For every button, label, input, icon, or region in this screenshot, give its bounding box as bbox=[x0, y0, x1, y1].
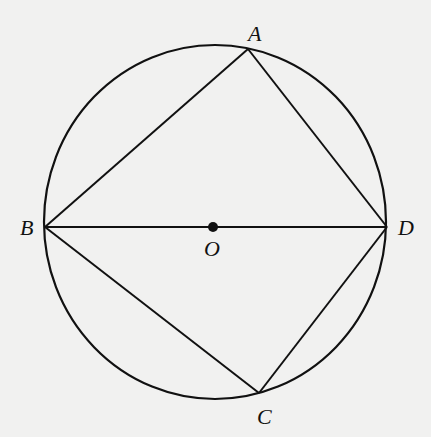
diagram-canvas: A B C D O bbox=[0, 0, 431, 437]
geometry-figure bbox=[0, 0, 431, 437]
label-d: D bbox=[398, 217, 414, 239]
label-o: O bbox=[204, 238, 220, 260]
label-a: A bbox=[248, 23, 261, 45]
segment-bc bbox=[45, 227, 259, 393]
circle bbox=[44, 45, 386, 399]
segment-ab bbox=[45, 49, 248, 227]
label-c: C bbox=[257, 406, 272, 428]
label-b: B bbox=[20, 217, 33, 239]
segment-cd bbox=[259, 227, 387, 393]
center-point-o bbox=[208, 222, 218, 232]
